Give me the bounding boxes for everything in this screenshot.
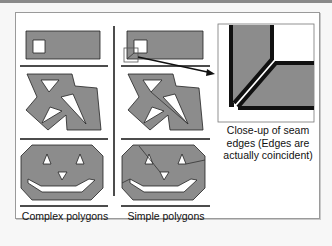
closeup-caption-line-3: actually coincident) [222, 149, 314, 162]
complex-pumpkin-face-polygon [21, 145, 103, 200]
simple-polygons-label: Simple polygons [121, 210, 211, 222]
closeup-caption-line-1: Close-up of seam [222, 124, 314, 137]
simple-split-polygon [128, 74, 203, 130]
complex-figure-eight-polygon [26, 74, 101, 130]
simple-column [121, 31, 215, 206]
closeup-caption-line-2: edges (Edges are [222, 137, 314, 150]
closeup-caption: Close-up of seam edges (Edges are actual… [222, 124, 314, 162]
arrowhead-icon [206, 69, 215, 76]
closeup-panel [218, 24, 314, 122]
complex-column [20, 31, 108, 206]
complex-rect-with-hole [26, 31, 100, 59]
simple-pumpkin-face-polygon [122, 145, 205, 200]
complex-polygons-label: Complex polygons [20, 210, 110, 222]
